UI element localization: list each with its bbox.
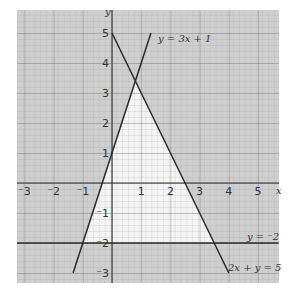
x-tick-label: ⁻1: [76, 185, 89, 198]
y-tick-label: 3: [102, 87, 109, 100]
y-tick-label: ⁻3: [96, 267, 109, 280]
x-tick-label: 1: [138, 185, 145, 198]
y-axis-label: y: [104, 6, 111, 17]
label-y-equals-minus-2: y = ⁻2: [246, 231, 279, 242]
y-tick-label: 4: [102, 57, 109, 70]
label-2x-plus-y-equals-5: 2x + y = 5: [227, 262, 282, 273]
y-tick-label: ⁻2: [96, 237, 109, 250]
x-tick-label: ⁻3: [18, 185, 31, 198]
inequality-graph: ⁻3⁻2⁻11234554321⁻1⁻2⁻3 x y y = 3x + 1 y …: [0, 0, 293, 298]
y-tick-label: ⁻1: [96, 207, 109, 220]
label-y-equals-3x-plus-1: y = 3x + 1: [157, 33, 212, 44]
y-tick-label: 1: [102, 147, 109, 160]
y-tick-label: 2: [102, 117, 109, 130]
x-axis-label: x: [276, 185, 282, 196]
coarse-grid: [17, 10, 279, 283]
x-tick-label: 4: [225, 185, 232, 198]
x-tick-label: ⁻2: [47, 185, 60, 198]
y-tick-label: 5: [102, 27, 109, 40]
x-tick-label: 2: [167, 185, 174, 198]
x-tick-label: 3: [196, 185, 203, 198]
x-tick-label: 5: [255, 185, 262, 198]
